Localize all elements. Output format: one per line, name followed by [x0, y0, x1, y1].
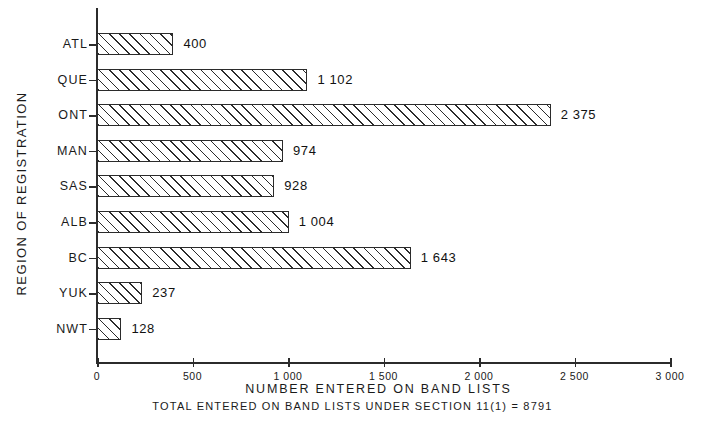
- bar-value-nwt: 128: [131, 321, 155, 336]
- x-axis-tick: [384, 358, 386, 367]
- bar-nwt: [97, 318, 121, 340]
- category-label-sas: SAS: [30, 179, 88, 193]
- bar-chart-figure: REGION OF REGISTRATION ATL400QUE1 102ONT…: [0, 0, 705, 424]
- x-axis-tick: [97, 358, 99, 367]
- bar-bc: [97, 247, 411, 269]
- x-axis-tick: [193, 358, 195, 367]
- category-label-yuk: YUK: [30, 286, 88, 300]
- bar-que: [97, 69, 307, 91]
- bar-alb: [97, 211, 289, 233]
- bar-man: [97, 140, 283, 162]
- bar-atl: [97, 33, 173, 55]
- bar-value-bc: 1 643: [421, 250, 457, 265]
- y-axis-title: REGION OF REGISTRATION: [14, 69, 29, 319]
- bar-value-yuk: 237: [152, 285, 176, 300]
- bar-yuk: [97, 282, 142, 304]
- bar-value-alb: 1 004: [299, 214, 335, 229]
- category-label-que: QUE: [30, 73, 88, 87]
- category-label-ont: ONT: [30, 108, 88, 122]
- x-axis-tick: [670, 358, 672, 367]
- x-axis-tick-label: 500: [183, 370, 202, 382]
- x-axis-tick: [479, 358, 481, 367]
- bar-value-ont: 2 375: [561, 107, 597, 122]
- x-axis-tick-label: 1 500: [369, 370, 398, 382]
- category-label-man: MAN: [30, 144, 88, 158]
- bar-sas: [97, 175, 274, 197]
- x-axis-tick-label: 1 000: [274, 370, 303, 382]
- x-axis-tick: [575, 358, 577, 367]
- x-axis-tick-label: 3 000: [656, 370, 685, 382]
- bar-value-que: 1 102: [317, 72, 353, 87]
- x-axis-tick-label: 2 000: [465, 370, 494, 382]
- x-axis-tick-label: 0: [94, 370, 100, 382]
- bar-value-man: 974: [293, 143, 317, 158]
- category-label-nwt: NWT: [30, 322, 88, 336]
- chart-footnote: TOTAL ENTERED ON BAND LISTS UNDER SECTIO…: [0, 400, 705, 412]
- bar-value-atl: 400: [183, 36, 207, 51]
- x-axis-title: NUMBER ENTERED ON BAND LISTS: [0, 382, 705, 396]
- x-axis-tick: [288, 358, 290, 367]
- bar-ont: [97, 104, 551, 126]
- bar-value-sas: 928: [284, 178, 308, 193]
- category-label-alb: ALB: [30, 215, 88, 229]
- category-label-bc: BC: [30, 251, 88, 265]
- x-axis-tick-label: 2 500: [560, 370, 589, 382]
- category-label-atl: ATL: [30, 37, 88, 51]
